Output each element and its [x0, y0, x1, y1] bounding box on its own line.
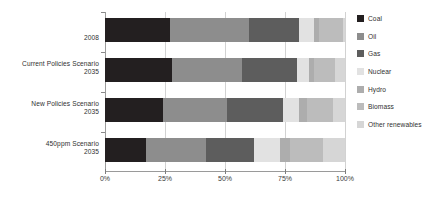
x-axis-tick-label: 100% [336, 175, 354, 182]
bar-segment-biomass [314, 58, 336, 82]
legend-item-label: Other renewables [368, 121, 422, 128]
legend-swatch-icon [357, 86, 364, 93]
legend-item-coal[interactable]: Coal [357, 10, 438, 28]
legend-item-label: Coal [368, 15, 382, 22]
bar-segment-gas [227, 98, 282, 122]
bar-segment-oil [146, 138, 206, 162]
bar-segment-other-renewables [335, 58, 345, 82]
x-axis-tick [345, 169, 346, 174]
gridline [345, 12, 346, 172]
bar-segment-hydro [299, 98, 306, 122]
bar-segment-nuclear [254, 138, 280, 162]
x-axis-tick-label: 25% [158, 175, 172, 182]
bar-segment-biomass [307, 98, 333, 122]
bar-row [105, 18, 345, 42]
legend-swatch-icon [357, 121, 364, 128]
legend-item-label: Oil [368, 33, 376, 40]
y-axis-label: Current Policies Scenario 2035 [0, 60, 99, 77]
bar-segment-coal [105, 18, 170, 42]
bar-segment-other-renewables [323, 138, 345, 162]
bar-segment-oil [172, 58, 242, 82]
bar-row [105, 58, 345, 82]
legend-swatch-icon [357, 15, 364, 22]
bar-segment-nuclear [297, 58, 309, 82]
bar-segment-hydro [280, 138, 290, 162]
y-axis-tick [101, 12, 105, 13]
bar-row [105, 138, 345, 162]
bar-segment-oil [170, 18, 249, 42]
bar-segment-coal [105, 98, 163, 122]
legend-swatch-icon [357, 50, 364, 57]
x-axis-tick-labels: 0%25%50%75%100% [105, 175, 345, 189]
stacked-bar-chart: 2008Current Policies Scenario 2035New Po… [0, 0, 438, 202]
bar-segment-coal [105, 58, 172, 82]
legend-item-oil[interactable]: Oil [357, 28, 438, 46]
y-axis-tick [101, 52, 105, 53]
bar-segment-other-renewables [333, 98, 345, 122]
bar-segment-nuclear [283, 98, 300, 122]
y-axis-tick [101, 92, 105, 93]
legend-item-hydro[interactable]: Hydro [357, 80, 438, 98]
legend-item-label: Nuclear [368, 68, 391, 75]
bar-row [105, 98, 345, 122]
y-axis-label: New Policies Scenario 2035 [0, 100, 99, 117]
bar-segment-gas [206, 138, 254, 162]
legend-swatch-icon [357, 33, 364, 40]
bar-segment-coal [105, 138, 146, 162]
x-axis-tick [105, 169, 106, 174]
legend-item-label: Biomass [368, 103, 394, 110]
y-axis-tick [101, 132, 105, 133]
bar-segment-gas [242, 58, 297, 82]
x-axis-tick-label: 0% [100, 175, 110, 182]
chart-legend: CoalOilGasNuclearHydroBiomassOther renew… [357, 10, 438, 133]
x-axis-tick [165, 169, 166, 174]
legend-swatch-icon [357, 103, 364, 110]
bar-segment-biomass [290, 138, 324, 162]
legend-item-nuclear[interactable]: Nuclear [357, 63, 438, 81]
x-axis-tick-label: 75% [278, 175, 292, 182]
x-axis-tick [225, 169, 226, 174]
x-axis-tick-label: 50% [218, 175, 232, 182]
legend-item-label: Gas [368, 50, 380, 57]
bar-segment-other-renewables [343, 18, 345, 42]
x-axis-tick [285, 169, 286, 174]
y-axis-category-labels: 2008Current Policies Scenario 2035New Po… [0, 0, 99, 202]
bar-segment-nuclear [299, 18, 313, 42]
legend-item-label: Hydro [368, 86, 386, 93]
y-axis-label: 2008 [0, 34, 99, 42]
legend-item-biomass[interactable]: Biomass [357, 98, 438, 116]
legend-item-gas[interactable]: Gas [357, 45, 438, 63]
legend-item-other-renewables[interactable]: Other renewables [357, 116, 438, 134]
bar-segment-biomass [319, 18, 343, 42]
plot-area [105, 12, 345, 172]
legend-swatch-icon [357, 68, 364, 75]
bar-segment-oil [163, 98, 228, 122]
y-axis-label: 450ppm Scenario 2035 [0, 140, 99, 157]
bar-segment-gas [249, 18, 299, 42]
